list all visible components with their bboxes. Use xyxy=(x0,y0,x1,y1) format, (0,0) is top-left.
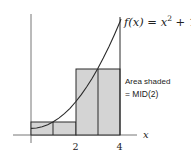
annotation-mid2: = MID(2) xyxy=(125,89,158,99)
midpoint-sum-diagram: f(x) = x2 + 1 Area shaded = MID(2) x 2 4 xyxy=(0,0,191,159)
function-label: f(x) = x2 + 1 xyxy=(123,14,191,29)
x-tick-4: 4 xyxy=(117,141,123,152)
annotation-area-shaded: Area shaded xyxy=(125,77,170,86)
x-axis-label: x xyxy=(143,129,149,140)
x-tick-2: 2 xyxy=(73,141,79,152)
